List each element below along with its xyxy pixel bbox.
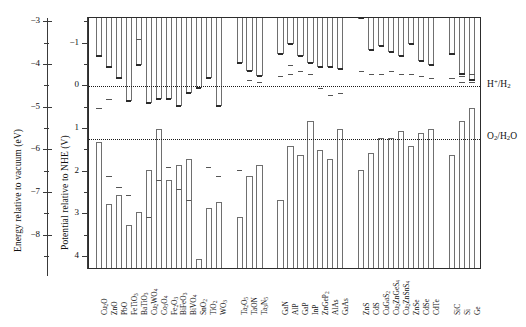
cb-edge-marker bbox=[298, 55, 303, 57]
valence-band-bar bbox=[156, 129, 162, 269]
material-label: ZnGeP2 bbox=[321, 291, 330, 315]
cb-edge-marker bbox=[196, 87, 201, 89]
cb-edge-marker bbox=[369, 49, 374, 51]
cb-edge-marker bbox=[328, 66, 333, 68]
nhe-tick-minor bbox=[84, 235, 87, 236]
conduction-band-bar bbox=[449, 17, 455, 54]
vacuum-tick bbox=[43, 192, 52, 193]
nhe-tick-label: 3 bbox=[60, 207, 79, 217]
valence-band-bar bbox=[327, 159, 333, 269]
valence-band-bar bbox=[256, 165, 262, 269]
vacuum-tick-minor bbox=[44, 171, 49, 172]
conduction-band-bar bbox=[388, 17, 394, 52]
vacuum-tick-minor bbox=[44, 85, 49, 86]
conduction-band-bar bbox=[196, 17, 202, 88]
reported-level-marker bbox=[156, 180, 161, 181]
cb-edge-marker bbox=[379, 45, 384, 47]
reported-level-marker bbox=[379, 74, 384, 75]
cb-edge-marker bbox=[278, 53, 283, 55]
cb-edge-marker bbox=[399, 55, 404, 57]
nhe-tick bbox=[82, 171, 87, 172]
reported-level-marker bbox=[298, 71, 303, 72]
nhe-tick-label: 2 bbox=[60, 165, 79, 175]
valence-band-bar bbox=[106, 204, 112, 269]
material-label: ZnSe bbox=[412, 299, 421, 315]
material-label: CdTe bbox=[432, 299, 441, 315]
valence-band-bar bbox=[136, 212, 142, 269]
cb-edge-marker bbox=[419, 60, 424, 62]
reported-level-marker bbox=[237, 170, 242, 171]
valence-band-bar bbox=[388, 138, 394, 269]
cb-edge-marker bbox=[186, 92, 191, 94]
oxygen-redox-line bbox=[89, 139, 480, 140]
cb-edge-marker bbox=[318, 66, 323, 68]
material-label: CdSe bbox=[422, 299, 431, 315]
valence-band-bar bbox=[216, 202, 222, 269]
conduction-band-bar bbox=[327, 17, 333, 67]
material-label: GaN bbox=[281, 301, 290, 315]
cb-edge-marker bbox=[176, 105, 181, 107]
cb-edge-marker bbox=[216, 105, 221, 107]
cb-edge-marker bbox=[257, 75, 262, 77]
reported-level-marker bbox=[409, 74, 414, 75]
valence-band-bar bbox=[186, 159, 192, 269]
vacuum-axis-line bbox=[47, 18, 48, 276]
conduction-band-bar bbox=[368, 17, 374, 50]
cb-edge-marker bbox=[459, 73, 464, 75]
nhe-tick-label: 1 bbox=[60, 122, 79, 132]
valence-band-bar bbox=[317, 150, 323, 269]
oxygen-redox-label: O2/H2O bbox=[487, 131, 517, 141]
reported-level-marker bbox=[247, 80, 252, 81]
vacuum-tick bbox=[43, 235, 52, 236]
valence-band-bar bbox=[307, 121, 313, 270]
reported-level-marker bbox=[186, 200, 191, 201]
band-diagram-plot bbox=[88, 17, 481, 269]
cb-edge-marker bbox=[136, 64, 141, 66]
cb-edge-marker bbox=[146, 102, 151, 104]
cb-edge-marker bbox=[96, 55, 101, 57]
reported-level-marker bbox=[429, 78, 434, 79]
reported-level-marker bbox=[399, 74, 404, 75]
reported-level-marker bbox=[359, 71, 364, 72]
hydrogen-redox-label: H+/H2 bbox=[487, 78, 511, 89]
material-label: BiFeO3 bbox=[179, 293, 188, 315]
conduction-band-bar bbox=[337, 17, 343, 69]
reported-level-marker bbox=[257, 82, 262, 83]
vacuum-tick bbox=[43, 64, 52, 65]
material-label: CuGaS2 bbox=[382, 291, 391, 315]
reported-level-marker bbox=[288, 74, 293, 75]
conduction-band-bar bbox=[378, 17, 384, 46]
vacuum-tick bbox=[43, 107, 52, 108]
right-axis-title: Potential relative to NHE (V) bbox=[60, 135, 70, 250]
reported-level-marker bbox=[338, 93, 343, 94]
valence-band-bar bbox=[176, 165, 182, 269]
valence-band-bar bbox=[459, 121, 465, 270]
conduction-band-bar bbox=[287, 17, 293, 44]
reported-level-marker bbox=[96, 108, 101, 109]
material-label: Cu2WO4 bbox=[150, 289, 159, 315]
material-label: Ta2O5 bbox=[240, 297, 249, 315]
reported-level-marker bbox=[166, 167, 171, 168]
valence-band-bar bbox=[297, 155, 303, 269]
reported-level-marker bbox=[288, 65, 293, 66]
material-label: ZnS bbox=[362, 303, 371, 315]
material-label: Fe2O3 bbox=[170, 297, 179, 315]
material-label: Cu2O bbox=[100, 298, 109, 315]
conduction-band-bar bbox=[428, 17, 434, 65]
reported-level-marker bbox=[449, 78, 454, 79]
vacuum-tick bbox=[43, 149, 52, 150]
cb-edge-marker bbox=[156, 98, 161, 100]
conduction-band-bar bbox=[398, 17, 404, 56]
vacuum-tick-label: −6 bbox=[20, 143, 40, 153]
material-label: PbO bbox=[120, 302, 129, 315]
material-label: TiO2 bbox=[209, 301, 218, 315]
material-label: Co3O4 bbox=[160, 296, 169, 315]
conduction-band-bar bbox=[96, 17, 102, 56]
conduction-band-bar bbox=[408, 17, 414, 44]
cb-edge-marker bbox=[359, 17, 364, 19]
reported-level-marker bbox=[469, 74, 474, 75]
valence-band-bar bbox=[378, 138, 384, 269]
reported-level-marker bbox=[136, 39, 141, 40]
conduction-band-bar bbox=[469, 17, 475, 80]
reported-level-marker bbox=[459, 76, 464, 77]
